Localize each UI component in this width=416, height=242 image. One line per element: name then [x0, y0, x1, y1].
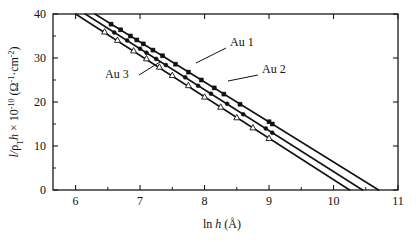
data-point: [125, 38, 129, 42]
data-point: [112, 30, 116, 34]
data-point: [212, 86, 216, 90]
y-tick-label: 30: [34, 51, 46, 65]
ylabel-unit-close: ): [7, 47, 21, 51]
data-point: [238, 102, 242, 106]
data-point: [270, 122, 274, 126]
data-point: [196, 84, 200, 88]
series-label-au-2: Au 2: [262, 62, 286, 76]
data-point: [186, 70, 190, 74]
scatter-line-plot: 67891011010203040 Au 1Au 2Au 3 ln h (Å) …: [0, 0, 416, 242]
data-point: [151, 48, 155, 52]
ylabel-exp: -10: [7, 98, 16, 109]
data-point: [222, 92, 226, 96]
data-point: [154, 57, 158, 61]
data-point: [141, 42, 145, 46]
ylabel-unit-exp1: -1: [7, 76, 16, 83]
data-point: [135, 38, 139, 42]
series-label-au-3: Au 3: [105, 67, 129, 81]
data-point: [161, 54, 165, 58]
xlabel-unit: (Å): [221, 217, 241, 231]
svg-text:ln h (Å): ln h (Å): [203, 217, 241, 231]
data-point: [145, 51, 149, 55]
data-point: [199, 78, 203, 82]
plot-background: [0, 0, 416, 242]
y-tick-label: 0: [40, 183, 46, 197]
x-tick-label: 6: [73, 194, 79, 208]
data-point: [270, 131, 274, 135]
ylabel-unit-mid: ·cm: [7, 57, 21, 76]
xlabel-ln: ln: [203, 217, 215, 231]
data-point: [109, 22, 113, 26]
data-point: [174, 62, 178, 66]
x-tick-label: 8: [202, 194, 208, 208]
y-tick-label: 10: [34, 139, 46, 153]
figure-container: 67891011010203040 Au 1Au 2Au 3 ln h (Å) …: [0, 0, 416, 242]
data-point: [128, 34, 132, 38]
y-tick-label: 40: [34, 7, 46, 21]
data-point: [241, 112, 245, 116]
y-tick-label: 20: [34, 95, 46, 109]
data-point: [264, 126, 268, 130]
x-tick-label: 9: [266, 194, 272, 208]
data-point: [225, 102, 229, 106]
ylabel-unit-exp2: -2: [7, 51, 16, 58]
x-tick-label: 7: [137, 194, 143, 208]
x-tick-label: 11: [392, 194, 404, 208]
data-point: [209, 92, 213, 96]
ylabel-times: × 10: [7, 109, 21, 134]
data-point: [183, 75, 187, 79]
data-point: [119, 28, 123, 32]
data-point: [138, 47, 142, 51]
x-axis-title: ln h (Å): [203, 217, 241, 231]
ylabel-unit-open: (Ω: [7, 82, 21, 98]
series-label-au-1: Au 1: [230, 35, 254, 49]
x-tick-label: 10: [328, 194, 340, 208]
data-point: [164, 63, 168, 67]
